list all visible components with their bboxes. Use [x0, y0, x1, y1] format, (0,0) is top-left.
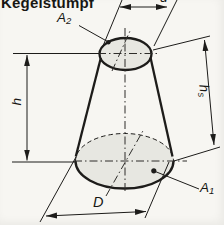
figure-title: Kegelstumpf	[1, 0, 94, 10]
base-diameter-label: D	[93, 195, 103, 210]
base-area-symbol: A	[200, 180, 209, 195]
slant-height-subscript: s	[196, 92, 207, 98]
base-area-subscript: 1	[209, 185, 214, 196]
top-area-label: A2	[57, 11, 71, 25]
kegelstumpf-figure: Kegelstumpf d h hs D A2 A1	[0, 0, 224, 225]
frustum-drawing	[0, 0, 224, 225]
D-dimension-line	[46, 212, 146, 217]
slant-height-label: hs	[196, 80, 212, 101]
a2-leader-line	[79, 26, 108, 42]
hs-extension-line-bottom	[174, 147, 220, 161]
a2-leader-dot	[106, 40, 111, 45]
hs-extension-line-top	[153, 36, 210, 50]
a1-leader-dot	[151, 168, 156, 173]
top-area-subscript: 2	[66, 15, 71, 26]
base-area-label: A1	[200, 181, 214, 195]
D-extension-line-left	[40, 157, 76, 222]
top-area-symbol: A	[57, 10, 66, 25]
height-label: h	[10, 93, 24, 111]
top-diameter-label: d	[160, 0, 168, 5]
